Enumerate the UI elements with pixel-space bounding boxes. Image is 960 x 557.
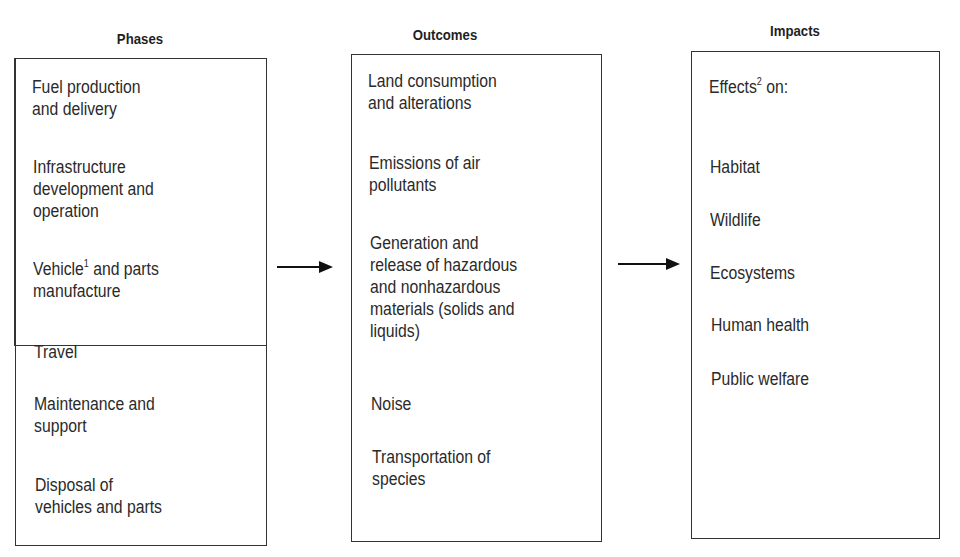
impact-item: Habitat [710, 156, 760, 178]
phases-box-frame [15, 58, 267, 546]
outcome-item: Transportation ofspecies [372, 446, 490, 490]
outcomes-header: Outcomes [379, 26, 511, 43]
impact-item: Public welfare [711, 368, 809, 390]
outcome-item: Noise [371, 393, 411, 415]
impacts-intro: Effects2 on: [709, 76, 788, 98]
phases-header: Phases [70, 30, 211, 47]
arrow-right-icon [277, 266, 329, 268]
outcome-item: Generation andrelease of hazardousand no… [370, 232, 517, 342]
impact-item: Human health [711, 314, 809, 336]
arrow-right-icon [618, 263, 676, 265]
outcome-item: Emissions of airpollutants [369, 152, 480, 196]
impacts-header: Impacts [729, 22, 861, 39]
outcome-item: Land consumptionand alterations [368, 70, 497, 114]
impacts-box [691, 51, 940, 539]
impact-item: Wildlife [710, 209, 761, 231]
impact-item: Ecosystems [710, 262, 795, 284]
